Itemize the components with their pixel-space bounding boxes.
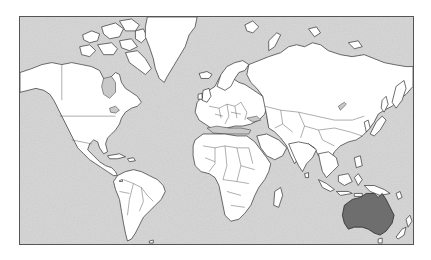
tasmania — [378, 238, 382, 243]
sri-lanka — [305, 173, 309, 178]
world-map — [19, 16, 414, 245]
ireland — [198, 93, 202, 99]
world-map-svg — [20, 17, 413, 244]
